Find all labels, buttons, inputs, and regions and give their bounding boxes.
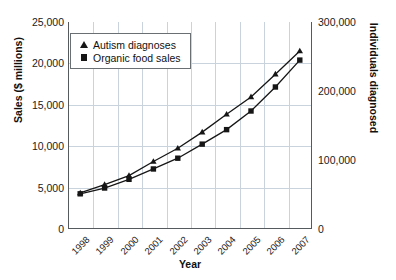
gridline-vertical — [191, 22, 192, 228]
y-axis-right-tick: 100,000 — [318, 154, 388, 166]
y-axis-left-tick: 5,000 — [4, 182, 64, 194]
square-marker-icon — [77, 54, 91, 61]
y-axis-left-tick: 0 — [4, 223, 64, 235]
legend-label: Autism diagnoses — [93, 39, 176, 51]
gridline-vertical — [240, 22, 241, 228]
gridline-vertical — [289, 22, 290, 228]
y-axis-right-tick: 0 — [318, 223, 388, 235]
gridline-horizontal — [69, 188, 311, 189]
y-axis-left-tick: 10,000 — [4, 140, 64, 152]
triangle-marker-icon — [77, 41, 91, 48]
gridline-vertical — [215, 22, 216, 228]
y-axis-right-title: Individuals diagnosed — [368, 13, 380, 143]
gridline-horizontal — [69, 105, 311, 106]
y-axis-left-title: Sales ($ millions) — [12, 20, 24, 140]
legend-label: Organic food sales — [93, 52, 181, 64]
legend-item-organic-food-sales: Organic food sales — [77, 51, 181, 64]
chart-container: 25,000 20,000 15,000 10,000 5,000 0 300,… — [0, 0, 396, 280]
x-axis-title: Year — [68, 258, 312, 270]
gridline-vertical — [264, 22, 265, 228]
legend: Autism diagnoses Organic food sales — [70, 33, 191, 69]
legend-item-autism-diagnoses: Autism diagnoses — [77, 38, 181, 51]
gridline-horizontal — [69, 146, 311, 147]
